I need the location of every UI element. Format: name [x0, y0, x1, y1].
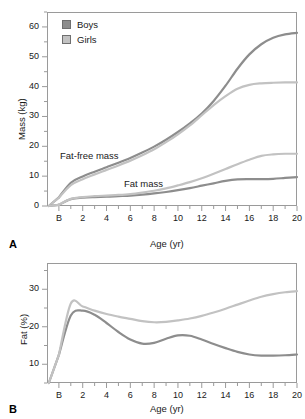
- x-tick-label: 2: [74, 214, 92, 223]
- x-tick-label: 10: [169, 214, 187, 223]
- x-tick-label: 14: [217, 214, 235, 223]
- x-tick-label: B: [50, 391, 68, 400]
- y-tick-label: 20: [9, 322, 39, 331]
- x-tick-label: 18: [264, 214, 282, 223]
- x-tick-label: 20: [288, 214, 305, 223]
- y-tick-label: 20: [9, 141, 39, 150]
- panel-b-canvas: [0, 0, 305, 419]
- x-tick-label: 12: [193, 391, 211, 400]
- x-tick-label: B: [50, 214, 68, 223]
- x-tick-label: 6: [121, 391, 139, 400]
- x-tick-label: 14: [217, 391, 235, 400]
- y-tick-label: 30: [9, 111, 39, 120]
- x-tick-label: 16: [240, 391, 258, 400]
- x-tick-label: 6: [121, 214, 139, 223]
- panel-b-x-axis-title: Age (yr): [150, 403, 184, 414]
- y-tick-label: 60: [9, 22, 39, 31]
- x-tick-label: 10: [169, 391, 187, 400]
- x-tick-label: 12: [193, 214, 211, 223]
- y-tick-label: 10: [9, 359, 39, 368]
- x-tick-label: 2: [74, 391, 92, 400]
- figure-root: Mass (kg) Age (yr) A Boys Girls Fat-free…: [0, 0, 305, 419]
- y-tick-label: 10: [9, 171, 39, 180]
- x-tick-label: 4: [98, 391, 116, 400]
- x-tick-label: 16: [240, 214, 258, 223]
- y-tick-label: 30: [9, 284, 39, 293]
- x-tick-label: 8: [145, 214, 163, 223]
- x-tick-label: 8: [145, 391, 163, 400]
- x-tick-label: 20: [288, 391, 305, 400]
- series-line-leadin: [49, 355, 59, 383]
- x-tick-label: 4: [98, 214, 116, 223]
- y-tick-label: 50: [9, 52, 39, 61]
- panel-b-letter: B: [9, 403, 17, 415]
- y-tick-label: 0: [9, 201, 39, 210]
- x-tick-label: 18: [264, 391, 282, 400]
- series-line: [59, 310, 297, 355]
- series-line: [59, 291, 297, 355]
- y-tick-label: 40: [9, 82, 39, 91]
